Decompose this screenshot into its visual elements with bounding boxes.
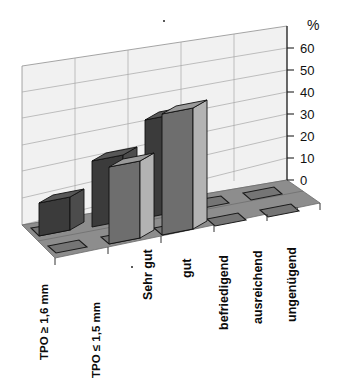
value-axis: [287, 26, 294, 180]
bar-front-gut: [109, 153, 154, 244]
ytick-label-20: 20: [300, 129, 314, 144]
ytick-label-0: 0: [300, 173, 307, 188]
series-label-tpo-le-15mm: TPO ≤ 1,5 mm: [90, 302, 102, 378]
series-label-tpo-ge-16mm: TPO ≥ 1,6 mm: [38, 284, 50, 360]
chart-3d-bar: 60 50 40 30 20 10 0 % Sehr gut gut befri…: [0, 0, 349, 380]
category-label-sehr-gut: Sehr gut: [141, 248, 155, 300]
axis-unit-label: %: [307, 17, 319, 33]
ytick-label-30: 30: [300, 107, 314, 122]
ytick-label-60: 60: [300, 41, 314, 56]
category-label-ungenuegend: ungenügend: [285, 247, 299, 322]
chart-svg: 60 50 40 30 20 10 0 % Sehr gut gut befri…: [0, 0, 349, 380]
category-label-gut: gut: [180, 258, 194, 278]
category-label-befriedigend: befriedigend: [217, 255, 231, 330]
category-label-ausreichend: ausreichend: [251, 250, 265, 324]
ytick-label-40: 40: [300, 85, 314, 100]
ytick-label-50: 50: [300, 63, 314, 78]
ytick-label-10: 10: [300, 151, 314, 166]
bar-front-befriedigend: [162, 100, 207, 235]
